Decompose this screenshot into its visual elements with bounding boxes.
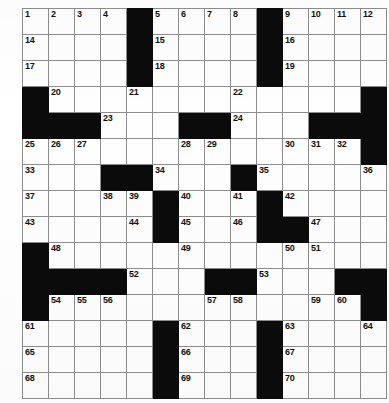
crossword-cell[interactable]: 55	[75, 295, 101, 321]
crossword-cell[interactable]: 53	[257, 269, 283, 295]
crossword-cell[interactable]	[179, 269, 205, 295]
crossword-cell[interactable]: 44	[127, 217, 153, 243]
crossword-cell[interactable]: 28	[179, 139, 205, 165]
crossword-cell[interactable]	[153, 269, 179, 295]
crossword-cell[interactable]	[75, 165, 101, 191]
crossword-cell[interactable]: 47	[309, 217, 335, 243]
crossword-cell[interactable]: 50	[283, 243, 309, 269]
crossword-cell[interactable]: 48	[49, 243, 75, 269]
crossword-cell[interactable]: 1	[23, 9, 49, 35]
crossword-cell[interactable]: 8	[231, 9, 257, 35]
crossword-cell[interactable]: 21	[127, 87, 153, 113]
crossword-cell[interactable]: 61	[23, 321, 49, 347]
crossword-cell[interactable]: 31	[309, 139, 335, 165]
crossword-cell[interactable]: 43	[23, 217, 49, 243]
crossword-cell[interactable]	[179, 35, 205, 61]
crossword-cell[interactable]	[49, 373, 75, 399]
crossword-cell[interactable]	[101, 243, 127, 269]
crossword-cell[interactable]	[309, 321, 335, 347]
crossword-cell[interactable]: 25	[23, 139, 49, 165]
crossword-cell[interactable]: 41	[231, 191, 257, 217]
crossword-cell[interactable]: 34	[153, 165, 179, 191]
crossword-cell[interactable]	[127, 243, 153, 269]
crossword-cell[interactable]	[101, 347, 127, 373]
crossword-cell[interactable]: 57	[205, 295, 231, 321]
crossword-cell[interactable]	[361, 243, 387, 269]
crossword-cell[interactable]	[231, 61, 257, 87]
crossword-cell[interactable]	[335, 347, 361, 373]
crossword-cell[interactable]: 64	[361, 321, 387, 347]
crossword-cell[interactable]	[361, 35, 387, 61]
crossword-cell[interactable]	[179, 165, 205, 191]
crossword-cell[interactable]	[49, 35, 75, 61]
crossword-cell[interactable]	[257, 139, 283, 165]
crossword-cell[interactable]	[205, 217, 231, 243]
crossword-cell[interactable]	[127, 373, 153, 399]
crossword-cell[interactable]: 58	[231, 295, 257, 321]
crossword-cell[interactable]	[283, 295, 309, 321]
crossword-cell[interactable]	[309, 87, 335, 113]
crossword-cell[interactable]: 11	[335, 9, 361, 35]
crossword-cell[interactable]	[49, 217, 75, 243]
crossword-cell[interactable]	[257, 243, 283, 269]
crossword-cell[interactable]: 51	[309, 243, 335, 269]
crossword-cell[interactable]	[75, 217, 101, 243]
crossword-cell[interactable]	[127, 347, 153, 373]
crossword-cell[interactable]: 18	[153, 61, 179, 87]
crossword-cell[interactable]	[205, 165, 231, 191]
crossword-cell[interactable]: 62	[179, 321, 205, 347]
crossword-cell[interactable]	[49, 321, 75, 347]
crossword-cell[interactable]	[257, 87, 283, 113]
crossword-cell[interactable]: 6	[179, 9, 205, 35]
crossword-cell[interactable]	[153, 295, 179, 321]
crossword-cell[interactable]	[49, 61, 75, 87]
crossword-cell[interactable]	[335, 243, 361, 269]
crossword-cell[interactable]	[231, 243, 257, 269]
crossword-cell[interactable]: 33	[23, 165, 49, 191]
crossword-cell[interactable]	[179, 61, 205, 87]
crossword-cell[interactable]	[101, 217, 127, 243]
crossword-cell[interactable]	[231, 139, 257, 165]
crossword-cell[interactable]: 2	[49, 9, 75, 35]
crossword-cell[interactable]: 14	[23, 35, 49, 61]
crossword-cell[interactable]: 32	[335, 139, 361, 165]
crossword-cell[interactable]	[283, 165, 309, 191]
crossword-cell[interactable]	[231, 347, 257, 373]
crossword-cell[interactable]	[179, 295, 205, 321]
crossword-cell[interactable]	[335, 191, 361, 217]
crossword-cell[interactable]: 36	[361, 165, 387, 191]
crossword-cell[interactable]	[49, 165, 75, 191]
crossword-cell[interactable]	[75, 87, 101, 113]
crossword-cell[interactable]: 35	[257, 165, 283, 191]
crossword-cell[interactable]: 27	[75, 139, 101, 165]
crossword-cell[interactable]	[205, 35, 231, 61]
crossword-cell[interactable]	[75, 61, 101, 87]
crossword-cell[interactable]	[283, 113, 309, 139]
crossword-cell[interactable]	[335, 321, 361, 347]
crossword-cell[interactable]	[361, 347, 387, 373]
crossword-cell[interactable]: 39	[127, 191, 153, 217]
crossword-cell[interactable]	[231, 321, 257, 347]
crossword-cell[interactable]	[75, 347, 101, 373]
crossword-cell[interactable]	[49, 347, 75, 373]
crossword-cell[interactable]	[361, 217, 387, 243]
crossword-cell[interactable]: 60	[335, 295, 361, 321]
crossword-cell[interactable]	[309, 61, 335, 87]
crossword-cell[interactable]	[309, 165, 335, 191]
crossword-cell[interactable]	[205, 191, 231, 217]
crossword-cell[interactable]	[335, 373, 361, 399]
crossword-cell[interactable]: 26	[49, 139, 75, 165]
crossword-cell[interactable]: 16	[283, 35, 309, 61]
crossword-cell[interactable]: 22	[231, 87, 257, 113]
crossword-cell[interactable]	[101, 87, 127, 113]
crossword-cell[interactable]: 38	[101, 191, 127, 217]
crossword-cell[interactable]	[205, 87, 231, 113]
crossword-cell[interactable]: 59	[309, 295, 335, 321]
crossword-cell[interactable]	[361, 61, 387, 87]
crossword-cell[interactable]	[335, 87, 361, 113]
crossword-cell[interactable]	[257, 113, 283, 139]
crossword-cell[interactable]: 54	[49, 295, 75, 321]
crossword-cell[interactable]	[309, 35, 335, 61]
crossword-cell[interactable]	[361, 373, 387, 399]
crossword-cell[interactable]	[101, 373, 127, 399]
